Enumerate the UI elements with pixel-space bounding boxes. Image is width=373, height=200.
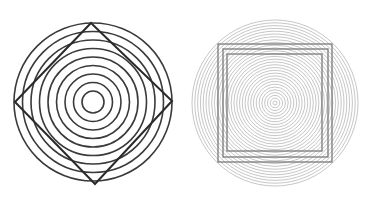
figure-concentric-circles-squares — [192, 20, 358, 186]
concentric-circle — [203, 31, 347, 175]
concentric-circle — [262, 90, 288, 116]
concentric-circle — [270, 98, 280, 108]
concentric-circle — [226, 54, 325, 153]
concentric-circle — [195, 23, 355, 183]
concentric-circle — [273, 101, 277, 105]
concentric-circle — [23, 32, 164, 173]
concentric-circle — [74, 83, 113, 122]
concentric-circle — [267, 95, 282, 110]
concentric-circle — [259, 87, 291, 119]
concentric-circle — [223, 51, 328, 156]
concentric-circle — [253, 81, 296, 124]
concentric-circle — [212, 40, 339, 167]
concentric-circle — [48, 57, 138, 147]
concentric-circle — [217, 45, 333, 161]
figure-concentric-circles-diamond — [14, 23, 172, 184]
concentric-circle — [31, 40, 155, 164]
concentric-circle — [240, 68, 311, 139]
concentric-circle — [14, 23, 172, 181]
concentric-circle — [231, 59, 319, 147]
concentric-circle — [82, 91, 104, 113]
concentric-circle — [242, 70, 307, 135]
concentric-circle — [214, 42, 335, 163]
concentric-circle — [40, 49, 147, 156]
concentric-circle — [57, 66, 130, 139]
concentric-circle — [251, 79, 300, 128]
illustration-canvas — [0, 0, 373, 200]
concentric-circle — [245, 73, 305, 133]
concentric-circle — [234, 62, 316, 144]
